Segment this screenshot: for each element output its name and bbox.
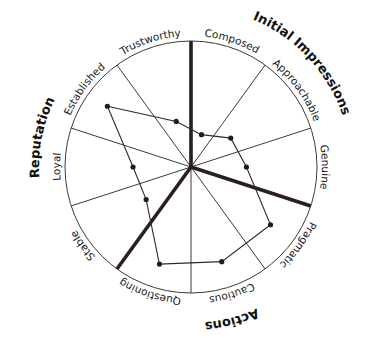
group-divider-line xyxy=(117,167,191,269)
data-point-cautious xyxy=(219,259,224,264)
category-label-trustworthy: Trustworthy xyxy=(117,26,181,57)
radar-chart: ComposedApproachableGenuinePragmaticCaut… xyxy=(0,0,373,358)
data-point-trustworthy xyxy=(174,119,179,124)
category-label-cautious: Cautious xyxy=(209,281,257,307)
radar-spoke xyxy=(71,167,191,206)
data-point-approachable xyxy=(228,136,233,141)
data-point-pragmatic xyxy=(268,222,273,227)
data-point-loyal xyxy=(130,164,135,169)
category-label-established: Established xyxy=(61,60,107,117)
group-divider-line xyxy=(191,167,311,206)
category-label-loyal: Loyal xyxy=(50,152,63,181)
category-label-questioning: Questioning xyxy=(117,277,182,308)
data-point-stable xyxy=(144,197,149,202)
data-point-genuine xyxy=(244,164,249,169)
radar-spoke xyxy=(191,65,265,167)
data-point-established xyxy=(105,104,110,109)
radar-spoke xyxy=(191,167,265,269)
category-label-pragmatic: Pragmatic xyxy=(278,220,320,271)
data-point-composed xyxy=(199,132,204,137)
group-label-actions: Actions xyxy=(204,306,262,335)
radar-spoke xyxy=(191,128,311,167)
category-label-genuine: Genuine xyxy=(318,144,332,190)
category-label-composed: Composed xyxy=(204,27,262,56)
data-point-questioning xyxy=(157,261,162,266)
